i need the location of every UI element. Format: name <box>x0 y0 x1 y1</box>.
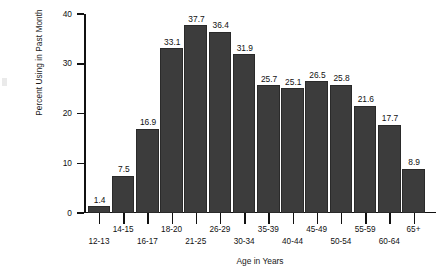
x-axis-tick <box>123 213 125 224</box>
x-axis-tick-label: 14-15 <box>100 225 146 234</box>
bar-value-label: 36.4 <box>204 20 238 30</box>
bar-rect <box>209 32 232 213</box>
x-axis-tick-label: 26-29 <box>197 225 243 234</box>
y-axis-tick <box>77 113 84 115</box>
bar-rect <box>378 125 401 213</box>
y-axis-tick-label: 0 <box>46 208 72 218</box>
bar-value-label: 21.6 <box>349 94 383 104</box>
bar-value-label: 8.9 <box>397 157 431 167</box>
bar-rect <box>88 206 111 213</box>
y-axis-tick-label: 40 <box>46 9 72 19</box>
bar-series: 1.47.516.933.137.736.431.925.725.126.525… <box>84 14 436 213</box>
x-axis-tick-label: 65+ <box>391 225 437 234</box>
bar-rect <box>305 81 328 213</box>
y-axis-tick-label: 20 <box>46 108 72 118</box>
x-axis-title: Age in Years <box>84 256 436 266</box>
x-axis-tick-label: 30-34 <box>221 237 267 246</box>
x-axis-tick <box>414 213 416 224</box>
x-axis-tick-label: 18-20 <box>149 225 195 234</box>
x-axis-tick-label: 55-59 <box>342 225 388 234</box>
x-axis-tick <box>293 213 295 224</box>
y-axis-ticks: 010203040 <box>0 0 84 230</box>
x-axis-tick <box>317 213 319 224</box>
bar-rect <box>184 25 207 213</box>
x-axis-tick <box>244 213 246 224</box>
x-axis-tick-label: 12-13 <box>76 237 122 246</box>
y-axis-tick <box>77 163 84 165</box>
x-axis-ticks: 12-1314-1516-1718-2021-2526-2930-3435-39… <box>84 213 440 259</box>
bar-rect <box>402 169 425 213</box>
x-axis-tick <box>365 213 367 224</box>
bar-rect <box>160 48 183 213</box>
bar-value-label: 17.7 <box>373 113 407 123</box>
y-axis-tick-label: 10 <box>46 158 72 168</box>
bar-rect <box>281 88 304 213</box>
x-axis-tick <box>341 213 343 224</box>
bar-chart: Percent Using in Past Month 010203040 1.… <box>0 0 444 277</box>
bar-rect <box>257 85 280 213</box>
y-axis-tick <box>77 212 84 214</box>
x-axis-tick <box>268 213 270 224</box>
x-axis-tick <box>147 213 149 224</box>
y-axis-tick <box>77 13 84 15</box>
x-axis-tick <box>220 213 222 224</box>
x-axis-tick-label: 60-64 <box>366 237 412 246</box>
x-axis-tick <box>196 213 198 224</box>
x-axis-tick-label: 45-49 <box>294 225 340 234</box>
x-axis-tick-label: 40-44 <box>270 237 316 246</box>
y-axis-tick <box>77 63 84 65</box>
x-axis-tick-label: 35-39 <box>245 225 291 234</box>
x-axis-tick-label: 16-17 <box>124 237 170 246</box>
bar-rect <box>136 129 159 213</box>
bar-rect <box>112 176 135 213</box>
y-axis-tick-label: 30 <box>46 58 72 68</box>
bar-value-label: 25.8 <box>325 73 359 83</box>
x-axis-tick-label: 50-54 <box>318 237 364 246</box>
x-axis-tick <box>99 213 101 224</box>
x-axis-tick-label: 21-25 <box>173 237 219 246</box>
bar-value-label: 31.9 <box>228 43 262 53</box>
x-axis-tick <box>172 213 174 224</box>
x-axis-tick <box>389 213 391 224</box>
